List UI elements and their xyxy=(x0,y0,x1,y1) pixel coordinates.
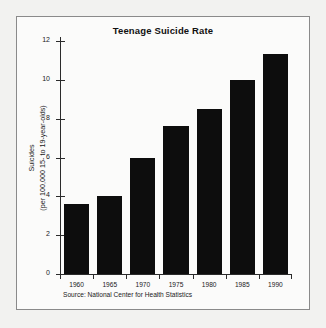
bar xyxy=(130,158,155,274)
x-tick xyxy=(60,274,61,279)
y-tick-label: 6 xyxy=(46,153,50,160)
y-axis-label-line1: Suicides xyxy=(27,144,36,171)
bar xyxy=(64,204,89,274)
x-tick-label: 1965 xyxy=(93,281,126,288)
x-tick-label: 1975 xyxy=(159,281,192,288)
x-tick-label: 1985 xyxy=(226,281,259,288)
bar xyxy=(97,196,122,274)
y-tick-label: 4 xyxy=(46,191,50,198)
x-tick-label: 1980 xyxy=(193,281,226,288)
x-axis-line xyxy=(60,274,292,275)
x-tick xyxy=(291,274,292,279)
bar xyxy=(163,126,188,274)
y-tick-label: 2 xyxy=(46,230,50,237)
x-tick xyxy=(226,274,227,279)
bar xyxy=(197,109,222,274)
bar-series xyxy=(60,41,292,274)
bar xyxy=(263,54,288,274)
bar xyxy=(230,80,255,274)
page-canvas: Teenage Suicide Rate Suicides (per 100,0… xyxy=(0,0,326,328)
x-tick-label: 1990 xyxy=(259,281,292,288)
chart-figure-frame: Teenage Suicide Rate Suicides (per 100,0… xyxy=(16,16,310,310)
x-tick xyxy=(93,274,94,279)
x-tick xyxy=(193,274,194,279)
y-tick-label: 12 xyxy=(42,36,50,43)
x-tick-label: 1960 xyxy=(60,281,93,288)
chart-title: Teenage Suicide Rate xyxy=(17,25,309,36)
source-note: Source: National Center for Health Stati… xyxy=(63,291,192,298)
x-tick xyxy=(126,274,127,279)
y-tick-label: 8 xyxy=(46,114,50,121)
x-tick-label: 1970 xyxy=(126,281,159,288)
plot-area: 024681012 1960196519701975198019851990 xyxy=(60,41,292,274)
x-tick xyxy=(259,274,260,279)
x-tick xyxy=(159,274,160,279)
y-tick-label: 0 xyxy=(46,269,50,276)
y-tick-label: 10 xyxy=(42,75,50,82)
